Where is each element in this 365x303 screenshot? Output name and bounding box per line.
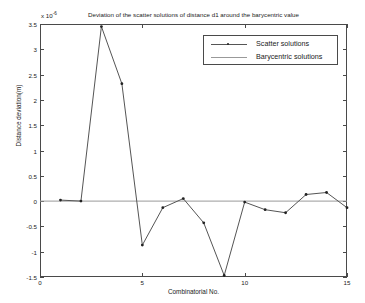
legend-marker-dot-icon xyxy=(227,43,229,45)
data-point-marker xyxy=(202,221,205,224)
data-point-marker xyxy=(264,208,267,211)
y-tick-label: 3.5 xyxy=(0,21,37,28)
y-tick-label: -0.5 xyxy=(0,223,37,230)
y-tick-mark xyxy=(40,277,44,278)
x-tick-label: 15 xyxy=(332,279,362,286)
data-point-marker xyxy=(59,199,62,202)
data-point-marker xyxy=(325,191,328,194)
x-tick-label: 10 xyxy=(230,279,260,286)
y-tick-label: -1 xyxy=(0,248,37,255)
x-tick-label: 5 xyxy=(127,279,157,286)
x-tick-label: 0 xyxy=(25,279,55,286)
data-point-marker xyxy=(141,244,144,247)
data-point-marker xyxy=(182,197,185,200)
data-point-marker xyxy=(346,206,349,209)
chart-figure: x 10-6 Deviation of the scatter solution… xyxy=(0,0,365,303)
data-point-marker xyxy=(243,201,246,204)
legend-item-scatter-solutions: Scatter solutions xyxy=(204,38,337,51)
data-point-marker xyxy=(284,211,287,214)
data-point-marker xyxy=(161,206,164,209)
y-axis-label: Distance deviation(m) xyxy=(15,46,22,186)
data-point-marker xyxy=(120,82,123,85)
x-tick-mark xyxy=(347,24,348,28)
x-tick-mark xyxy=(347,273,348,277)
y-tick-label: 0 xyxy=(0,198,37,205)
legend-label-barycentric: Barycentric solutions xyxy=(256,52,322,61)
legend-label-scatter: Scatter solutions xyxy=(256,39,309,48)
data-point-marker xyxy=(100,25,103,28)
legend-item-barycentric-solutions: Barycentric solutions xyxy=(204,51,337,64)
data-point-marker xyxy=(223,274,226,277)
y-tick-mark xyxy=(343,277,347,278)
chart-legend: Scatter solutions Barycentric solutions xyxy=(203,35,338,65)
legend-line-icon xyxy=(211,44,247,45)
x-axis-label: Combinatorial No. xyxy=(40,288,347,295)
data-point-marker xyxy=(80,200,83,203)
legend-line-icon xyxy=(211,57,247,58)
data-point-marker xyxy=(305,193,308,196)
